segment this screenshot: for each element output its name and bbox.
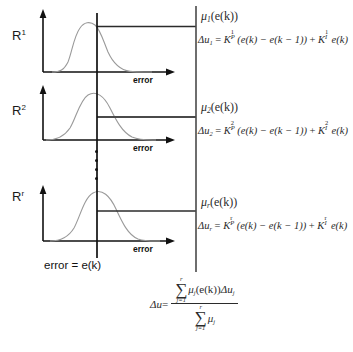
mu-label-1: μ1(e(k)) xyxy=(201,10,238,24)
formula-denominator: r ∑ j=1 μj xyxy=(191,304,219,331)
diagram-canvas: R1 R2 Rr error error error μ1(e(k)) μ2(e… xyxy=(0,0,353,352)
rule-label-3: Rr xyxy=(12,190,24,203)
delta-u-equation-3: Δur = KrP(e(k) − e(k − 1)) + KrIe(k) xyxy=(198,218,347,232)
ellipsis-dot xyxy=(95,150,98,153)
formula-numerator: r ∑ j=1 μj(e(k))Δuj xyxy=(171,276,238,303)
error-cut-caption: error = e(k) xyxy=(44,260,101,272)
delta-u-equation-1: Δu1 = K1P(e(k) − e(k − 1)) + K1Ie(k) xyxy=(198,32,348,46)
ellipsis-dot xyxy=(95,177,98,180)
x-axis-label-3: error xyxy=(133,245,153,254)
formula-lhs: Δu= xyxy=(150,298,168,310)
rule-label-1: R1 xyxy=(12,29,26,42)
ellipsis-dot xyxy=(95,168,98,171)
panel-3-axes xyxy=(40,185,175,244)
numerator-summation: r ∑ j=1 xyxy=(175,276,187,303)
formula-fraction: r ∑ j=1 μj(e(k))Δuj r ∑ j=1 μj xyxy=(171,276,238,332)
defuzzification-formula: Δu= r ∑ j=1 μj(e(k))Δuj r ∑ j=1 μj xyxy=(150,276,238,332)
denominator-term: μj xyxy=(208,312,215,325)
x-axis-label-2: error xyxy=(133,144,153,153)
mu-label-3: μr(e(k)) xyxy=(201,196,237,210)
mu-label-2: μ2(e(k)) xyxy=(201,101,238,115)
delta-u-equation-2: Δu2 = K2P(e(k) − e(k − 1)) + K2Ie(k) xyxy=(198,123,348,137)
membership-curve-3 xyxy=(50,191,160,241)
denominator-summation: r ∑ j=1 xyxy=(195,304,207,331)
x-axis-label-1: error xyxy=(133,76,153,85)
rule-label-2: R2 xyxy=(12,104,26,117)
panel-2-axes xyxy=(40,85,175,143)
numerator-term: μj(e(k))Δuj xyxy=(188,283,234,296)
panel-1-axes xyxy=(40,9,175,75)
membership-curve-1 xyxy=(52,23,152,72)
ellipsis-dot xyxy=(95,159,98,162)
